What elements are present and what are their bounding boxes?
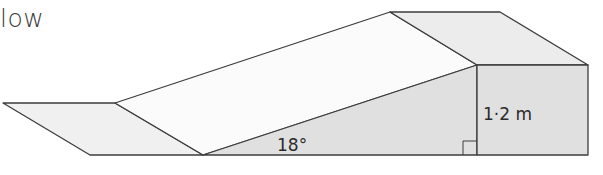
height-label: 1·2 m (483, 104, 532, 124)
angle-label: 18° (277, 135, 307, 155)
ramp-diagram: 18° 1·2 m (0, 0, 603, 175)
